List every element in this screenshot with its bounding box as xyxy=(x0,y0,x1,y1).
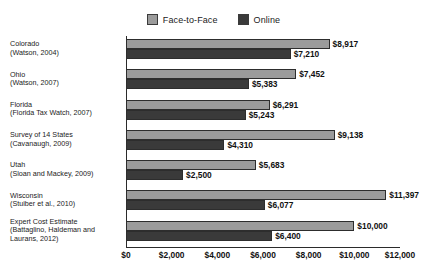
category-label: Expert Cost Estimate(Battaglino, Haldema… xyxy=(10,218,126,244)
x-axis-line xyxy=(126,247,400,248)
bar-online xyxy=(126,140,224,150)
category-label: Ohio(Watson, 2007) xyxy=(10,71,126,88)
category-label: Utah(Sloan and Mackey, 2009) xyxy=(10,161,126,178)
bar-value-label: $6,400 xyxy=(272,231,301,241)
bar-value-label: $9,138 xyxy=(335,130,364,140)
bar-face-to-face xyxy=(126,160,256,170)
x-axis-tick-label: $0 xyxy=(121,250,130,260)
category-label-source: (Florida Tax Watch, 2007) xyxy=(10,109,126,118)
bar-face-to-face xyxy=(126,39,330,49)
legend-entry-online: Online xyxy=(238,14,281,25)
bar-value-label: $4,310 xyxy=(224,140,253,150)
category-axis-labels: Colorado(Watson, 2004)Ohio(Watson, 2007)… xyxy=(0,36,122,248)
legend-entry-face-to-face: Face-to-Face xyxy=(147,14,218,25)
bar-face-to-face xyxy=(126,190,386,200)
legend-label-online: Online xyxy=(254,15,281,25)
bar-face-to-face xyxy=(126,69,296,79)
bar-online xyxy=(126,170,183,180)
category-label-source: (Stuiber et al., 2010) xyxy=(10,200,126,209)
x-axis-tick-label: $10,000 xyxy=(339,250,369,260)
category-label: Florida(Florida Tax Watch, 2007) xyxy=(10,101,126,118)
x-axis-tick-labels: $0$2,000$4,000$6,000$8,000$10,000$12,000 xyxy=(126,250,400,264)
bar-value-label: $8,917 xyxy=(330,39,359,49)
bar-value-label: $5,243 xyxy=(246,110,275,120)
bar-value-label: $10,000 xyxy=(354,221,387,231)
category-label-source: (Cavanaugh, 2009) xyxy=(10,140,126,149)
bar-value-label: $11,397 xyxy=(386,190,419,200)
bar-online xyxy=(126,110,246,120)
bar-value-label: $5,683 xyxy=(256,160,285,170)
bar-value-label: $7,452 xyxy=(296,69,325,79)
chart-legend: Face-to-Face Online xyxy=(0,14,427,25)
category-label-source: (Sloan and Mackey, 2009) xyxy=(10,170,126,179)
legend-label-face-to-face: Face-to-Face xyxy=(163,15,218,25)
legend-swatch-face-to-face xyxy=(147,14,158,25)
bar-online xyxy=(126,200,265,210)
bar-value-label: $5,383 xyxy=(249,79,278,89)
x-axis-tick-label: $6,000 xyxy=(250,250,276,260)
bar-online xyxy=(126,79,249,89)
plot-area: $8,917$7,210$7,452$5,383$6,291$5,243$9,1… xyxy=(126,36,400,248)
bar-face-to-face xyxy=(126,221,354,231)
category-label-source: (Watson, 2004) xyxy=(10,49,126,58)
x-axis-tick-label: $2,000 xyxy=(159,250,185,260)
bar-value-label: $7,210 xyxy=(291,49,320,59)
bar-online xyxy=(126,231,272,241)
category-label-source: (Watson, 2007) xyxy=(10,79,126,88)
x-axis-tick-label: $8,000 xyxy=(296,250,322,260)
bar-value-label: $6,291 xyxy=(270,100,299,110)
bar-online xyxy=(126,49,291,59)
category-label-source-cont: Laurans, 2012) xyxy=(10,235,126,244)
legend-swatch-online xyxy=(238,14,249,25)
bar-face-to-face xyxy=(126,100,270,110)
x-axis-tick-label: $4,000 xyxy=(205,250,231,260)
category-label: Colorado(Watson, 2004) xyxy=(10,40,126,57)
category-label: Wisconsin(Stuiber et al., 2010) xyxy=(10,192,126,209)
bar-value-label: $2,500 xyxy=(183,170,212,180)
bar-chart: Face-to-Face Online Colorado(Watson, 200… xyxy=(0,0,427,279)
category-label: Survey of 14 States(Cavanaugh, 2009) xyxy=(10,131,126,148)
x-axis-tick-label: $12,000 xyxy=(385,250,415,260)
bar-face-to-face xyxy=(126,130,335,140)
bar-value-label: $6,077 xyxy=(265,200,294,210)
